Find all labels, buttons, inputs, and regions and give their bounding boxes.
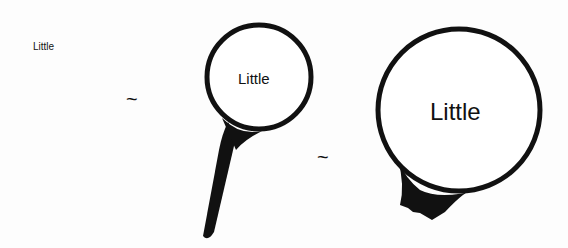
magnified-medium-text: Little [238,70,270,87]
magnification-diagram: Little ~ Little ~ Little [0,0,568,248]
original-text: Little [33,41,54,52]
tilde-icon: ~ [317,146,329,169]
magnified-large-text: Little [430,98,481,126]
magnifier-shapes [0,0,568,248]
magnifier-medium-icon [203,25,311,238]
tilde-icon: ~ [126,88,138,111]
